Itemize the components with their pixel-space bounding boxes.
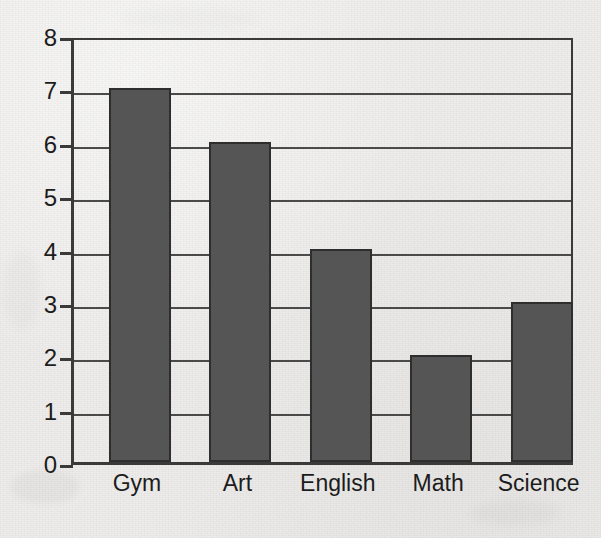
x-axis-tick-label: Art [223,472,252,495]
y-axis-tick-mark [60,465,73,468]
bar [310,249,372,463]
y-axis-tick-mark [60,198,73,201]
y-axis-tick-label: 8 [31,26,57,50]
y-axis-tick-mark [60,412,73,415]
y-axis-tick-label: 0 [31,453,57,477]
bar [511,302,573,462]
x-axis-tick-label: Math [413,472,464,495]
y-axis-tick-label: 2 [31,346,57,370]
plot-area [71,38,573,465]
y-axis-tick-mark [60,91,73,94]
x-axis-tick-label: Science [498,472,580,495]
y-axis-tick-mark [60,252,73,255]
y-axis-tick-mark [60,145,73,148]
x-axis-tick-label: English [300,472,375,495]
bar-chart: 012345678 GymArtEnglishMathScience [0,0,601,538]
y-axis-tick-label: 7 [31,79,57,103]
y-axis-tick-label: 3 [31,293,57,317]
bar [109,88,171,462]
bar [209,142,271,462]
bar-series [74,40,571,462]
y-axis-tick-label: 6 [31,133,57,157]
y-axis-tick-label: 1 [31,400,57,424]
y-axis-tick-mark [60,358,73,361]
bar [410,355,472,462]
y-axis-tick-label: 4 [31,240,57,264]
y-axis-tick-mark [60,38,73,41]
y-axis-tick-mark [60,305,73,308]
x-axis-tick-label: Gym [113,472,162,495]
y-axis-tick-label: 5 [31,186,57,210]
